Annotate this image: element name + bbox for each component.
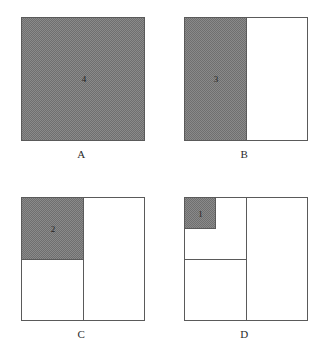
cell-number-d: 1 — [185, 210, 216, 219]
panel-caption-b: B — [163, 148, 326, 160]
panel-caption-c: C — [0, 328, 163, 340]
square-outline-b: 3 — [184, 17, 308, 141]
square-outline-a: 4 — [21, 17, 145, 141]
cell-number-c: 2 — [22, 225, 84, 234]
panel-b: 3 B — [163, 0, 326, 180]
cell-number-b: 3 — [185, 75, 247, 84]
figure-grid: 4 A 3 B 2 C 1 D — [0, 0, 326, 360]
panel-caption-d: D — [163, 328, 326, 340]
square-outline-c: 2 — [21, 197, 145, 321]
panel-caption-a: A — [0, 148, 163, 160]
panel-a: 4 A — [0, 0, 163, 180]
divider-horizontal-d — [184, 259, 247, 260]
panel-c: 2 C — [0, 180, 163, 360]
divider-horizontal-c — [21, 259, 84, 260]
cell-number-a: 4 — [22, 75, 146, 84]
square-outline-d: 1 — [184, 197, 308, 321]
panel-d: 1 D — [163, 180, 326, 360]
divider-horizontal-inner-d — [184, 228, 216, 229]
